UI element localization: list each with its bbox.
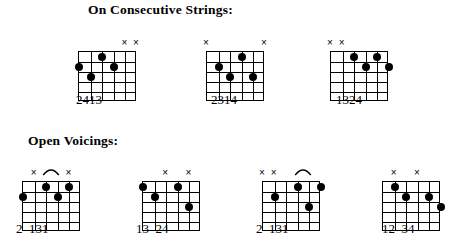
fingering-label-open-2: 13 24: [136, 222, 169, 235]
mute-x-icon-string-2: ×: [391, 168, 397, 178]
fret-line: [207, 82, 263, 83]
mute-marker-row: ××: [382, 168, 440, 181]
mute-x-icon-string-2: ×: [339, 38, 345, 48]
fret-line: [331, 82, 387, 83]
fret-line: [263, 212, 319, 213]
finger-dot-s5-f3: [185, 203, 193, 211]
finger-dot-s5-f3: [305, 203, 313, 211]
mute-x-icon-string-5: ×: [65, 168, 71, 178]
mute-marker-row: ××: [78, 38, 136, 51]
finger-dot-s2-f2: [215, 63, 223, 71]
finger-dot-s4-f2: [54, 193, 62, 201]
finger-dot-s3-f2: [402, 193, 410, 201]
mute-marker-row: ××: [330, 38, 388, 51]
finger-dot-s3-f1: [350, 53, 358, 61]
finger-dot-s6-f1: [317, 183, 325, 191]
mute-x-icon-string-4: ×: [414, 168, 420, 178]
fret-line: [331, 72, 387, 73]
fret-line: [79, 82, 135, 83]
mute-x-icon-string-6: ×: [133, 38, 139, 48]
fingering-label-consecutive-1: 2413: [76, 93, 102, 106]
finger-dot-s6-f3: [437, 203, 445, 211]
finger-dot-s6-f2: [385, 63, 393, 71]
finger-dot-s2-f3: [87, 73, 95, 81]
mute-marker-row: ××: [142, 168, 200, 181]
mute-x-icon-string-5: ×: [121, 38, 127, 48]
finger-dot-s2-f2: [151, 193, 159, 201]
fingering-label-consecutive-3: 1324: [336, 93, 362, 106]
finger-dot-s4-f1: [238, 53, 246, 61]
finger-dot-s5-f1: [65, 183, 73, 191]
fingering-label-consecutive-2: 2314: [211, 93, 237, 106]
finger-dot-s2-f2: [271, 193, 279, 201]
finger-dot-s2-f1: [391, 183, 399, 191]
finger-dot-s3-f3: [226, 73, 234, 81]
mute-x-icon-string-3: ×: [162, 168, 168, 178]
mute-marker-row: ××: [206, 38, 264, 51]
finger-dot-s1-f2: [75, 63, 83, 71]
finger-dot-s4-f1: [294, 183, 302, 191]
fingering-label-open-4: 12 34: [382, 222, 415, 235]
mute-marker-row: ××: [262, 168, 320, 181]
fingering-label-open-1: 2 131: [16, 222, 49, 235]
finger-dot-s4-f1: [174, 183, 182, 191]
mute-x-icon-string-1: ×: [259, 168, 265, 178]
mute-x-icon-string-1: ×: [327, 38, 333, 48]
fret-line: [23, 202, 79, 203]
fret-line: [79, 62, 135, 63]
fret-line: [331, 62, 387, 63]
finger-dot-s3-f1: [42, 183, 50, 191]
finger-dot-s3-f1: [98, 53, 106, 61]
finger-dot-s1-f1: [139, 183, 147, 191]
mute-x-icon-string-6: ×: [261, 38, 267, 48]
fret-line: [383, 212, 439, 213]
finger-dot-s5-f2: [425, 193, 433, 201]
fret-line: [23, 212, 79, 213]
section-title-open: Open Voicings:: [28, 133, 118, 149]
section-title-consecutive: On Consecutive Strings:: [88, 2, 233, 18]
finger-dot-s4-f2: [362, 63, 370, 71]
finger-dot-s5-f3: [249, 73, 257, 81]
mute-marker-row: ××: [22, 168, 80, 181]
chord-chart-sheet: On Consecutive Strings: Open Voicings: ×…: [0, 0, 462, 250]
mute-x-icon-string-5: ×: [185, 168, 191, 178]
mute-x-icon-string-1: ×: [203, 38, 209, 48]
finger-dot-s1-f2: [19, 193, 27, 201]
slur-arc-icon: [41, 167, 61, 176]
fingering-label-open-3: 2 131: [256, 222, 289, 235]
mute-x-icon-string-2: ×: [271, 168, 277, 178]
finger-dot-s4-f2: [110, 63, 118, 71]
mute-x-icon-string-2: ×: [31, 168, 37, 178]
fret-line: [383, 202, 439, 203]
slur-arc-icon: [293, 167, 313, 176]
fret-line: [23, 192, 79, 193]
fret-line: [143, 212, 199, 213]
finger-dot-s5-f1: [373, 53, 381, 61]
